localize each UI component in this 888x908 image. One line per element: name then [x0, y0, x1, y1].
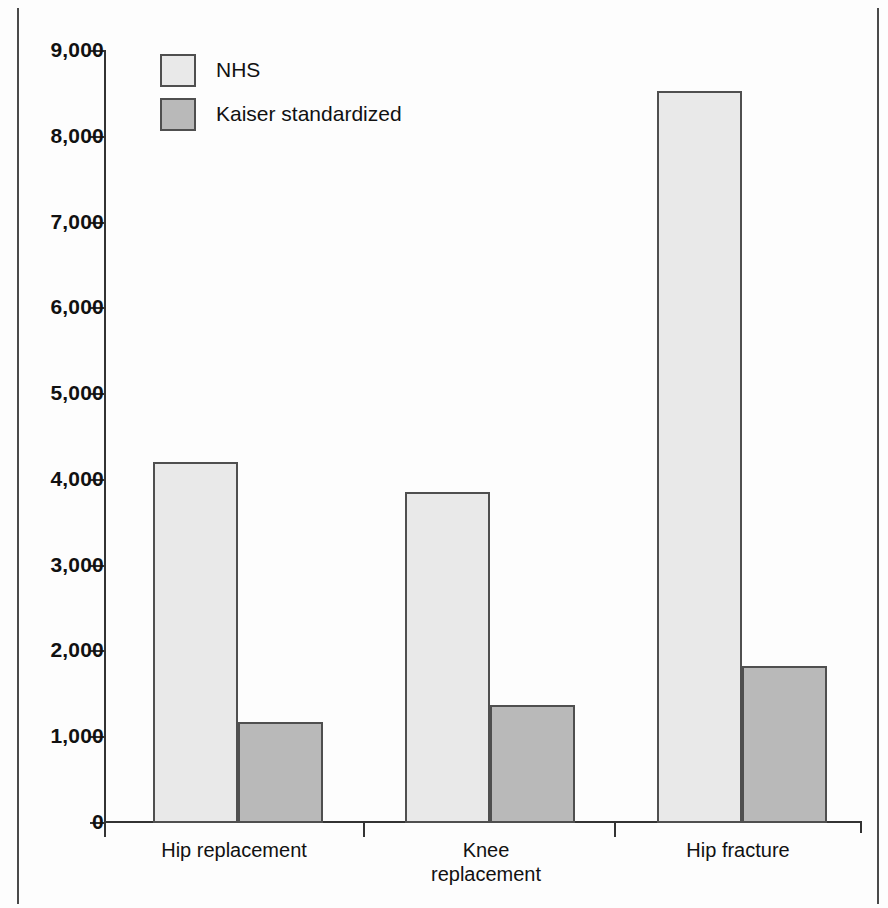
legend-label-nhs: NHS — [216, 58, 260, 82]
y-axis-tick-label: 5,000 — [20, 382, 104, 403]
y-axis-tick-label: 0 — [20, 811, 104, 832]
x-axis-category-label-line: Hip replacement — [114, 838, 354, 862]
page-frame-right-rule — [877, 8, 879, 904]
x-axis-category-label-line: Hip fracture — [618, 838, 858, 862]
x-axis-category-separator — [363, 823, 365, 837]
y-axis-tick-label: 6,000 — [20, 296, 104, 317]
bar-kaiser-standardized-hip-fracture[interactable] — [742, 666, 827, 823]
bar-kaiser-standardized-knee-replacement[interactable] — [490, 705, 575, 823]
y-axis-tick-label: 2,000 — [20, 639, 104, 660]
y-axis-line — [104, 50, 106, 830]
y-axis-tick-label: 3,000 — [20, 554, 104, 575]
y-axis-tick-label: 7,000 — [20, 211, 104, 232]
legend-label-kaiser-standardized: Kaiser standardized — [216, 102, 402, 126]
x-axis-category-separator — [614, 823, 616, 837]
y-axis-tick-label: 1,000 — [20, 725, 104, 746]
bar-kaiser-standardized-hip-replacement[interactable] — [238, 722, 323, 823]
chart-legend: NHS Kaiser standardized — [160, 48, 402, 136]
legend-item-kaiser-standardized[interactable]: Kaiser standardized — [160, 92, 402, 136]
x-axis-end-tick — [860, 821, 862, 833]
bar-nhs-hip-replacement[interactable] — [153, 462, 238, 823]
x-axis-category-label: Hip fracture — [618, 838, 858, 862]
y-axis-tick-label: 4,000 — [20, 468, 104, 489]
bar-nhs-knee-replacement[interactable] — [405, 492, 490, 823]
x-axis-category-label: Hip replacement — [114, 838, 354, 862]
bar-chart-figure: 9,0008,0007,0006,0005,0004,0003,0002,000… — [0, 0, 888, 908]
y-axis-tick-label: 9,000 — [20, 39, 104, 60]
legend-swatch-nhs — [160, 54, 196, 87]
legend-swatch-kaiser-standardized — [160, 98, 196, 131]
x-axis-category-label-line: Knee — [366, 838, 606, 862]
x-axis-category-label: Kneereplacement — [366, 838, 606, 887]
legend-item-nhs[interactable]: NHS — [160, 48, 402, 92]
bar-nhs-hip-fracture[interactable] — [657, 91, 742, 823]
page-frame-left-rule — [17, 8, 19, 904]
x-axis-category-separator — [104, 823, 106, 837]
y-axis-tick-label: 8,000 — [20, 125, 104, 146]
x-axis-category-label-line: replacement — [366, 862, 606, 886]
